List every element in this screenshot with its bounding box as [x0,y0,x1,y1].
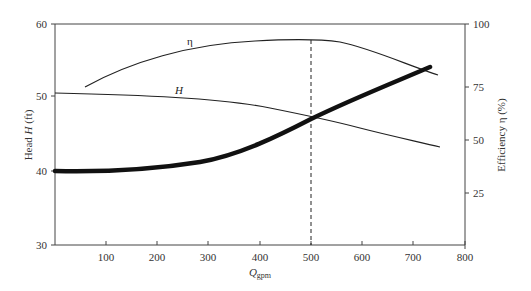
svg-text:300: 300 [200,251,217,263]
svg-text:800: 800 [457,251,474,263]
left-tick-labels: 60 50 40 30 [36,18,48,251]
svg-text:75: 75 [473,81,485,93]
efficiency-curve [85,40,438,87]
y-left-axis-title: Head H (ft) [22,109,35,160]
svg-text:50: 50 [36,90,48,102]
svg-text:400: 400 [252,251,269,263]
head-curve [55,93,440,147]
svg-text:500: 500 [303,251,320,263]
svg-text:25: 25 [473,187,485,199]
svg-text:200: 200 [149,251,166,263]
svg-text:40: 40 [36,165,48,177]
svg-text:50: 50 [473,134,485,146]
svg-text:60: 60 [36,18,48,30]
svg-text:100: 100 [473,18,490,30]
svg-text:100: 100 [98,251,115,263]
x-tick-labels: 100 200 300 400 500 600 700 800 [98,251,474,263]
right-tick-labels: 100 75 50 25 [473,18,490,199]
x-axis-title: Qgpm [249,266,272,280]
right-ticks [465,24,469,193]
svg-text:30: 30 [36,239,48,251]
eta-curve-label: η [187,35,193,47]
y-right-axis-title: Efficiency η (%) [495,98,508,172]
left-ticks [51,24,55,245]
pump-performance-chart: 60 50 40 30 100 75 50 25 100 200 300 400… [0,0,531,291]
svg-text:700: 700 [405,251,422,263]
system-curve [55,67,430,171]
H-curve-label: H [174,84,184,96]
svg-text:600: 600 [354,251,371,263]
